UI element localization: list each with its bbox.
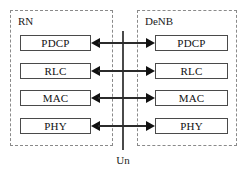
connector-rlc — [91, 63, 155, 79]
connector-pdcp — [91, 35, 155, 51]
un-interface-label: Un — [108, 154, 138, 166]
layer-box-denb-rlc: RLC — [155, 63, 228, 79]
entity-label-rn: RN — [18, 15, 33, 27]
layer-box-denb-phy: PHY — [155, 118, 228, 134]
connector-shaft — [98, 70, 148, 72]
arrowhead-right-icon — [146, 66, 155, 76]
layer-box-denb-pdcp: PDCP — [155, 35, 228, 51]
layer-box-rn-pdcp: PDCP — [20, 35, 91, 51]
connector-shaft — [98, 125, 148, 127]
layer-box-rn-rlc: RLC — [20, 63, 91, 79]
connector-mac — [91, 90, 155, 106]
connector-phy — [91, 118, 155, 134]
layer-box-rn-mac: MAC — [20, 90, 91, 106]
entity-label-denb: DeNB — [145, 15, 173, 27]
layer-box-denb-mac: MAC — [155, 90, 228, 106]
arrowhead-right-icon — [146, 38, 155, 48]
layer-box-rn-phy: PHY — [20, 118, 91, 134]
connector-shaft — [98, 97, 148, 99]
arrowhead-right-icon — [146, 93, 155, 103]
diagram-canvas: RN PDCP RLC MAC PHY DeNB PDCP RLC MAC PH… — [0, 0, 247, 173]
arrowhead-right-icon — [146, 121, 155, 131]
connector-shaft — [98, 42, 148, 44]
